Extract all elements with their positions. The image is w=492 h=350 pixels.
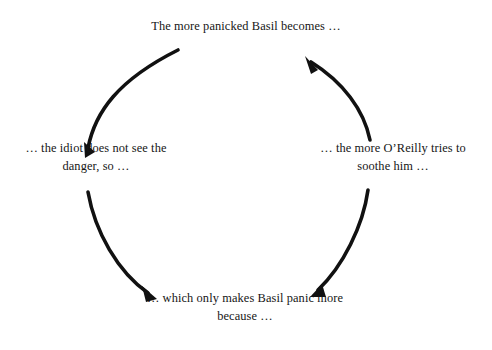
arc-bottom-to-right-arrow — [318, 190, 368, 290]
arc-top-to-left-arrow — [88, 50, 178, 148]
arc-right-to-top-arrow — [311, 62, 370, 140]
cycle-node-bottom: … which only makes Basil panic more beca… — [140, 290, 350, 325]
cycle-node-top: The more panicked Basil becomes … — [146, 18, 346, 36]
vicious-cycle-diagram: The more panicked Basil becomes … … the … — [0, 0, 492, 350]
cycle-node-left: … the idiot does not see the danger, so … — [8, 140, 184, 175]
cycle-node-right: … the more O’Reilly tries to soothe him … — [306, 140, 480, 175]
arc-left-to-bottom-arrow — [88, 192, 148, 293]
